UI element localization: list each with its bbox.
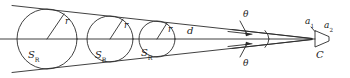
area-label-2-sub: R (102, 56, 107, 63)
radius-line-1 (47, 14, 64, 39)
figure-canvas: r r r SR SR SR d θ θ a1 a2 C (0, 0, 350, 78)
angle-arc-upper (265, 31, 269, 39)
angle-tick-lower (240, 44, 247, 57)
area-label-2-base: S (95, 49, 102, 60)
angle-label-upper: θ (243, 10, 248, 19)
radius-label-2: r (124, 21, 128, 30)
inner-ray-lower (232, 39, 312, 48)
area-label-1-sub: R (35, 56, 40, 63)
area-label-3: SR (141, 48, 153, 60)
radius-line-3 (157, 23, 167, 39)
inner-ray-upper (232, 30, 312, 39)
direction-arrow-lower-head (245, 42, 252, 46)
radius-line-2 (110, 19, 123, 39)
distance-label: d (187, 26, 193, 36)
camera-point-label: C (316, 50, 324, 60)
angle-tick-upper (240, 21, 247, 34)
aperture-label-1: a1 (305, 17, 314, 28)
area-label-3-sub: R (148, 54, 153, 61)
aperture-label-1-sub: 1 (310, 23, 314, 29)
aperture-label-2-sub: 2 (329, 27, 333, 33)
radius-label-3: r (168, 25, 172, 34)
area-label-1-base: S (28, 49, 35, 60)
area-label-1: SR (28, 50, 40, 62)
diagram-svg (0, 0, 350, 78)
area-label-2: SR (95, 50, 107, 62)
camera-glyph (315, 31, 329, 47)
radius-label-1: r (65, 17, 69, 26)
angle-label-lower: θ (243, 59, 248, 68)
area-label-3-base: S (141, 47, 148, 58)
direction-arrow-upper-head (245, 32, 252, 36)
aperture-label-2: a2 (324, 21, 333, 32)
angle-arc-lower (265, 39, 269, 47)
